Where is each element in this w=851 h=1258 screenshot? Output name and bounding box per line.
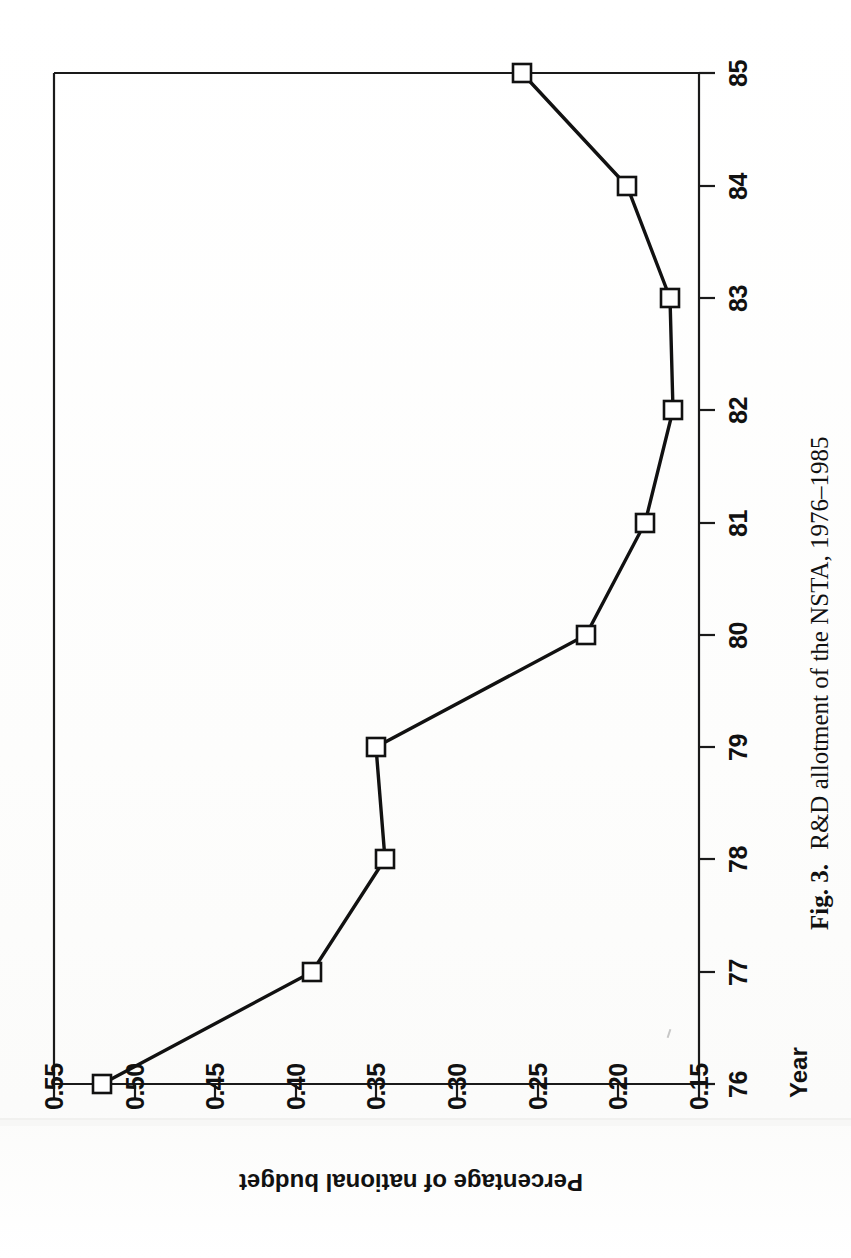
data-marker bbox=[93, 1075, 111, 1093]
data-marker bbox=[618, 177, 636, 195]
value-tick-label-0_45: 0.45 bbox=[201, 1063, 230, 1110]
value-tick-label-0_35: 0.35 bbox=[362, 1063, 391, 1110]
year-tick-label-83: 83 bbox=[724, 285, 753, 312]
data-markers bbox=[93, 64, 682, 1093]
data-marker bbox=[513, 64, 531, 82]
figure-caption-text: R&D allotment of the NSTA, 1976–1985 bbox=[806, 437, 833, 850]
year-tick-label-84: 84 bbox=[724, 173, 753, 200]
year-tick-label-79: 79 bbox=[724, 734, 753, 761]
year-axis-title: Year bbox=[785, 1047, 813, 1098]
data-marker bbox=[636, 514, 654, 532]
data-marker bbox=[664, 401, 682, 419]
value-axis-title: Percentage of national budget bbox=[239, 1168, 583, 1196]
data-line bbox=[102, 73, 673, 1084]
year-tick-label-77: 77 bbox=[724, 959, 753, 986]
figure-stage: 0.55 0.50 0.45 0.40 0.35 0.30 0.25 0.20 … bbox=[0, 0, 851, 1258]
data-marker bbox=[577, 626, 595, 644]
value-tick-label-0_25: 0.25 bbox=[524, 1063, 553, 1110]
value-tick-label-0_30: 0.30 bbox=[443, 1063, 472, 1110]
value-tick-label-0_15: 0.15 bbox=[685, 1063, 714, 1110]
year-tick-label-78: 78 bbox=[724, 846, 753, 873]
plot-frame-rules bbox=[54, 73, 699, 1084]
year-tick-label-82: 82 bbox=[724, 397, 753, 424]
year-tick-label-76: 76 bbox=[724, 1071, 753, 1098]
data-marker bbox=[303, 963, 321, 981]
value-tick-label-0_55: 0.55 bbox=[40, 1063, 69, 1110]
value-tick-label-0_40: 0.40 bbox=[282, 1063, 311, 1110]
value-tick-label-0_50: 0.50 bbox=[121, 1063, 150, 1110]
year-tick-label-80: 80 bbox=[724, 622, 753, 649]
figure-caption: Fig. 3. R&D allotment of the NSTA, 1976–… bbox=[806, 437, 834, 930]
data-marker bbox=[376, 850, 394, 868]
data-marker bbox=[367, 738, 385, 756]
year-axis-ticks bbox=[699, 73, 715, 1084]
year-tick-label-85: 85 bbox=[724, 60, 753, 87]
value-tick-label-0_20: 0.20 bbox=[604, 1063, 633, 1110]
data-marker bbox=[661, 289, 679, 307]
figure-caption-lead: Fig. 3. bbox=[806, 864, 833, 930]
year-tick-label-81: 81 bbox=[724, 510, 753, 537]
